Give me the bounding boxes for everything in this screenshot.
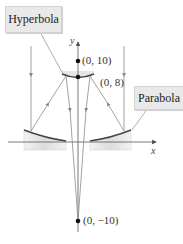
hyperbola-leader	[40, 32, 63, 74]
parabola-mirror	[24, 130, 131, 150]
parabola-leader	[132, 108, 148, 130]
point-label-0-8: (0, 8)	[100, 76, 124, 88]
point-label-0-10: (0, 10)	[82, 54, 111, 66]
point-0-10	[76, 59, 81, 64]
point-label-0-neg10: (0, −10)	[83, 214, 119, 226]
y-axis-label: y	[70, 35, 74, 46]
diagram-canvas	[0, 0, 183, 244]
point-0-8	[76, 75, 81, 80]
x-axis-label: x	[151, 145, 155, 156]
point-0-neg10	[76, 219, 81, 224]
parabola-label: Parabola	[134, 86, 183, 110]
hyperbola-label: Hyperbola	[5, 6, 62, 33]
